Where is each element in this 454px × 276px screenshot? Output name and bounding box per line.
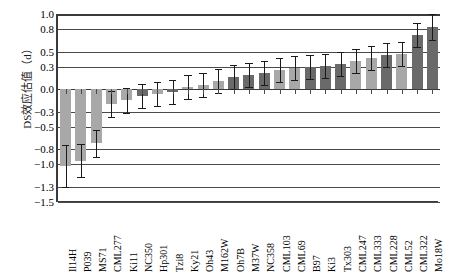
error-bar-cap: [245, 63, 252, 64]
y-tick-label: −1.3: [34, 182, 54, 193]
bar-group: [287, 14, 302, 202]
chart-figure: DS效应估值（d） 1.00.80.50.30.0−0.3−0.5−0.8−1.…: [0, 0, 454, 276]
error-bar-cap: [306, 55, 313, 56]
x-tick-label: CML277: [113, 235, 123, 272]
error-bar-cap: [383, 43, 390, 44]
error-bar: [188, 75, 189, 99]
bar-group: [425, 14, 440, 202]
error-bar-cap: [398, 42, 405, 43]
bar-group: [73, 14, 88, 202]
y-tick-label: 0.3: [40, 62, 54, 73]
x-tick-mark: [81, 89, 82, 94]
bar-series: [58, 14, 440, 202]
y-axis-tick-labels: 1.00.80.50.30.0−0.3−0.5−0.8−1.0−1.3−1.5: [18, 0, 54, 276]
bar-group: [302, 14, 317, 202]
bar-group: [89, 14, 104, 202]
bar-group: [196, 14, 211, 202]
x-tick-label: CML333: [373, 235, 383, 272]
error-bar-cap: [77, 144, 84, 145]
x-tick-label: NC358: [266, 243, 276, 272]
bar-group: [333, 14, 348, 202]
error-bar: [111, 91, 112, 117]
bar-group: [318, 14, 333, 202]
x-tick-mark: [341, 89, 342, 94]
error-bar-cap: [108, 117, 115, 118]
error-bar-cap: [199, 97, 206, 98]
x-tick-mark: [280, 89, 281, 94]
error-bar-cap: [429, 40, 436, 41]
bar-group: [58, 14, 73, 202]
error-bar-cap: [276, 58, 283, 59]
error-bar: [402, 42, 403, 66]
bar-group: [348, 14, 363, 202]
x-tick-mark: [387, 89, 388, 94]
bar-group: [211, 14, 226, 202]
error-bar: [432, 14, 433, 40]
error-bar-cap: [93, 157, 100, 158]
error-bar: [264, 61, 265, 85]
x-tick-label: Hp301: [159, 245, 169, 272]
error-bar: [81, 144, 82, 177]
error-bar: [341, 52, 342, 76]
x-tick-label: M162W: [220, 239, 230, 272]
error-bar: [295, 56, 296, 80]
bar-group: [409, 14, 424, 202]
error-bar-cap: [337, 76, 344, 77]
x-axis-tick-labels: Il14HP039MS71CML277Ki11NC350Hp301Tzi8Ky2…: [56, 204, 438, 276]
error-bar-cap: [322, 78, 329, 79]
x-tick-mark: [264, 89, 265, 94]
y-tick-label: −0.3: [34, 107, 54, 118]
error-bar: [96, 130, 97, 157]
x-tick-mark: [234, 89, 235, 94]
bar-group: [272, 14, 287, 202]
y-tick-label: −1.5: [34, 197, 54, 208]
error-bar-cap: [138, 84, 145, 85]
x-tick-mark: [295, 89, 296, 94]
x-tick-label: B97: [312, 255, 322, 272]
x-tick-mark: [432, 89, 433, 94]
error-bar-cap: [77, 177, 84, 178]
x-tick-mark: [111, 89, 112, 94]
error-bar-cap: [230, 65, 237, 66]
error-bar: [234, 65, 235, 89]
error-bar-cap: [352, 49, 359, 50]
bar-group: [165, 14, 180, 202]
bar-group: [134, 14, 149, 202]
bar-group: [241, 14, 256, 202]
x-tick-mark: [371, 89, 372, 94]
error-bar-cap: [337, 52, 344, 53]
error-bar-cap: [261, 85, 268, 86]
plot-area: [56, 14, 438, 202]
x-tick-mark: [127, 89, 128, 94]
error-bar: [387, 43, 388, 67]
error-bar: [249, 63, 250, 87]
error-bar: [356, 49, 357, 73]
x-tick-label: Oh7B: [236, 248, 246, 272]
x-tick-label: CML247: [358, 235, 368, 272]
x-tick-label: CML322: [419, 235, 429, 272]
error-bar-cap: [123, 113, 130, 114]
error-bar-cap: [413, 23, 420, 24]
x-tick-label: Il14H: [68, 249, 78, 272]
x-tick-label: MS71: [98, 248, 108, 272]
x-tick-label: Mo18W: [434, 239, 444, 272]
x-tick-label: Oh43: [205, 250, 215, 272]
error-bar-cap: [184, 99, 191, 100]
error-bar-cap: [368, 70, 375, 71]
gridline: [58, 202, 440, 203]
error-bar-cap: [413, 47, 420, 48]
x-tick-label: CML103: [282, 235, 292, 272]
error-bar-cap: [154, 82, 161, 83]
x-tick-mark: [325, 89, 326, 94]
x-tick-label: Tzi8: [175, 254, 185, 272]
error-bar-cap: [276, 82, 283, 83]
x-tick-mark: [310, 89, 311, 94]
error-bar-cap: [62, 145, 69, 146]
bar-group: [150, 14, 165, 202]
bar-group: [180, 14, 195, 202]
x-tick-mark: [356, 89, 357, 94]
x-tick-mark: [142, 89, 143, 94]
error-bar-cap: [184, 75, 191, 76]
error-bar-cap: [215, 69, 222, 70]
x-tick-label: Ky21: [190, 250, 200, 272]
